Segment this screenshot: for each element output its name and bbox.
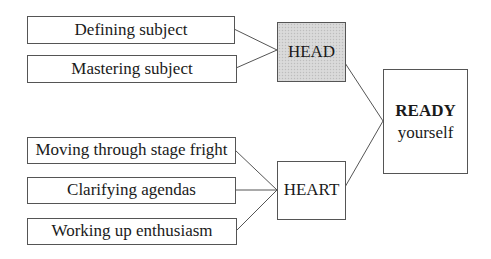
item-label: Moving through stage fright — [35, 141, 227, 160]
result-title: READY — [395, 100, 455, 121]
hub-heart: HEART — [277, 161, 346, 220]
item-label: Clarifying agendas — [67, 181, 196, 200]
item-clarifying-agendas: Clarifying agendas — [27, 177, 236, 204]
result-subtitle: yourself — [398, 122, 454, 143]
edge-head-to-ready — [345, 63, 383, 121]
edge-working-to-heart — [236, 190, 277, 231]
edge-heart-to-ready — [345, 121, 383, 187]
hub-head: HEAD — [277, 22, 346, 82]
item-defining-subject: Defining subject — [27, 16, 235, 44]
item-mastering-subject: Mastering subject — [27, 55, 237, 83]
edge-defining-to-head — [234, 29, 277, 50]
item-label: Defining subject — [75, 21, 188, 40]
hub-label: HEAD — [288, 43, 335, 62]
hub-label: HEART — [284, 181, 340, 200]
edge-mastering-to-head — [236, 50, 277, 68]
item-working-up-enthusiasm: Working up enthusiasm — [27, 218, 237, 245]
result-ready-yourself: READY yourself — [383, 69, 468, 174]
item-moving-through-stage-fright: Moving through stage fright — [27, 137, 236, 164]
item-label: Mastering subject — [71, 60, 192, 79]
item-label: Working up enthusiasm — [51, 222, 212, 241]
edge-moving-to-heart — [235, 150, 277, 190]
